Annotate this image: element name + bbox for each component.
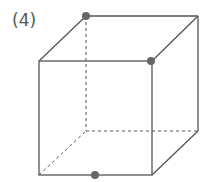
point-front-top-right [147,57,155,65]
right-top-edge [152,16,198,61]
point-front-bottom-mid [91,171,99,179]
right-bottom-edge [152,131,198,175]
cube-diagram: (4) [0,0,207,182]
front-face [39,61,152,175]
cube-figure [0,0,207,182]
left-top-edge [39,16,86,61]
hidden-depth-edge [39,131,86,175]
point-back-top-left [82,12,90,20]
